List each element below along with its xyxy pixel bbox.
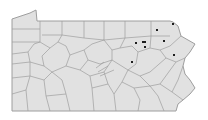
marker-dot[interactable] (142, 41, 144, 43)
marker-dot[interactable] (131, 61, 133, 63)
marker-dot[interactable] (163, 40, 165, 42)
marker-dot[interactable] (172, 23, 174, 25)
marker-dot[interactable] (144, 46, 146, 48)
state-shape (12, 10, 195, 111)
marker-dot[interactable] (144, 41, 146, 43)
state-outline (12, 10, 195, 111)
marker-dot[interactable] (135, 42, 137, 44)
pennsylvania-county-map (0, 0, 208, 120)
marker-dot[interactable] (156, 29, 158, 31)
marker-dot[interactable] (173, 54, 175, 56)
